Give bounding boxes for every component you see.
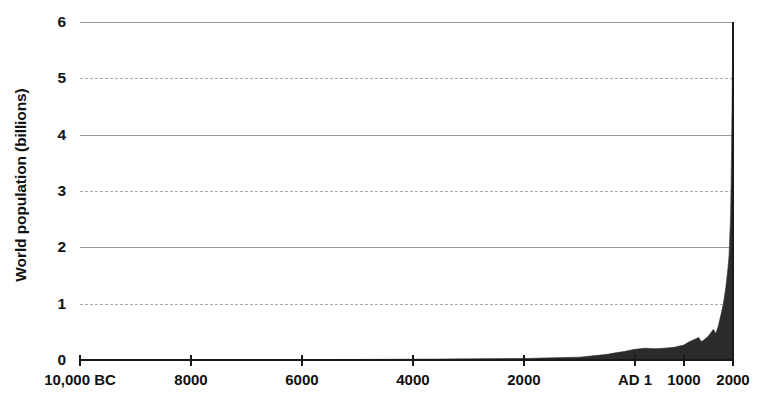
x-tick-8000 xyxy=(190,355,192,366)
y-tick-label-4: 4 xyxy=(40,127,66,143)
y-axis-title: World population (billions) xyxy=(4,0,38,370)
y-tick-label-2: 2 xyxy=(40,239,66,255)
y-tick-label-0: 0 xyxy=(40,352,66,368)
x-tick-6000 xyxy=(301,355,303,366)
x-tick-1000 xyxy=(683,355,685,366)
x-tick-label-AD-1: AD 1 xyxy=(618,371,652,389)
x-tick-AD-1 xyxy=(634,355,636,366)
y-tick-label-6: 6 xyxy=(40,14,66,30)
y-tick-label-1: 1 xyxy=(40,296,66,312)
x-tick-2000 xyxy=(732,355,734,366)
y-axis-title-text: World population (billions) xyxy=(12,88,30,281)
x-tick-label-1000: 1000 xyxy=(667,371,700,389)
y-tick-label-3: 3 xyxy=(40,183,66,199)
x-tick-label-2000: 2000 xyxy=(507,371,540,389)
x-tick-label-4000: 4000 xyxy=(396,371,429,389)
y-tick-label-5: 5 xyxy=(40,70,66,86)
world-population-chart: World population (billions) 6543210 10,0… xyxy=(0,0,762,415)
x-tick-2000 xyxy=(523,355,525,366)
x-tick-label-8000: 8000 xyxy=(174,371,207,389)
x-tick-label-10-000-BC: 10,000 BC xyxy=(44,371,116,389)
population-area-series xyxy=(80,22,733,360)
x-tick-10-000-BC xyxy=(79,355,81,366)
x-tick-4000 xyxy=(412,355,414,366)
plot-right-edge xyxy=(732,22,734,360)
x-tick-label-6000: 6000 xyxy=(285,371,318,389)
x-tick-label-2000: 2000 xyxy=(716,371,749,389)
plot-area xyxy=(80,22,733,360)
